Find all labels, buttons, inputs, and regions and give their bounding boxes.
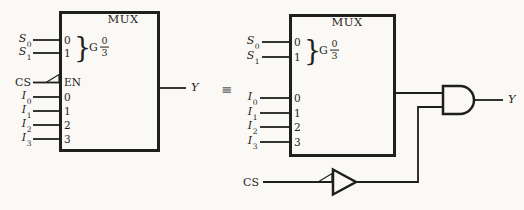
left-i1-pin: 1 — [64, 106, 71, 117]
left-cs-polarity-triangle-icon — [46, 75, 59, 83]
left-s1-pin: 1 — [64, 48, 71, 59]
left-i1-label: I1 — [22, 104, 31, 118]
right-g-qualifier: G — [319, 45, 328, 56]
right-cs-label: CS — [243, 177, 259, 188]
enable-to-gate-wire — [357, 107, 443, 182]
right-i0-label: I0 — [248, 91, 257, 105]
right-s1-label: S1 — [247, 50, 259, 64]
buffer-gate-icon — [333, 170, 356, 195]
left-i3-label: I3 — [22, 132, 31, 146]
left-s1-label: S1 — [19, 46, 31, 60]
left-i0-pin: 0 — [64, 92, 71, 103]
left-i2-pin: 2 — [64, 120, 71, 131]
left-cs-label: CS — [15, 77, 31, 88]
right-output-label: Y — [508, 94, 516, 106]
left-mux-symbol — [33, 13, 186, 151]
right-i1-pin: 1 — [294, 108, 301, 119]
right-s0-label: S0 — [247, 35, 259, 49]
right-i3-label: I3 — [248, 135, 257, 149]
right-i0-pin: 0 — [294, 93, 301, 104]
mux-equivalence-figure: MUX S0 S1 0 1 } G 03 CS EN I0 I1 I2 I3 0… — [0, 0, 524, 210]
right-i2-label: I2 — [248, 120, 257, 134]
right-i3-pin: 3 — [294, 137, 301, 148]
left-i3-pin: 3 — [64, 134, 71, 145]
equivalence-symbol: ≡ — [222, 83, 233, 96]
and-gate-icon — [443, 86, 474, 114]
right-mux-title: MUX — [331, 17, 362, 29]
left-i2-label: I2 — [22, 118, 31, 132]
left-s0-pin: 0 — [64, 35, 71, 46]
right-i1-label: I1 — [248, 106, 257, 120]
left-mux-title: MUX — [107, 14, 138, 26]
left-g-qualifier: G — [89, 42, 98, 53]
right-i2-pin: 2 — [294, 122, 301, 133]
left-en-pin: EN — [64, 77, 81, 88]
left-i0-label: I0 — [22, 90, 31, 104]
right-cs-polarity-triangle-icon — [318, 174, 332, 183]
left-output-label: Y — [191, 82, 199, 94]
left-g-range: 03 — [100, 36, 109, 59]
right-s1-pin: 1 — [294, 52, 301, 63]
right-s0-pin: 0 — [294, 37, 301, 48]
right-g-range: 03 — [330, 39, 339, 62]
